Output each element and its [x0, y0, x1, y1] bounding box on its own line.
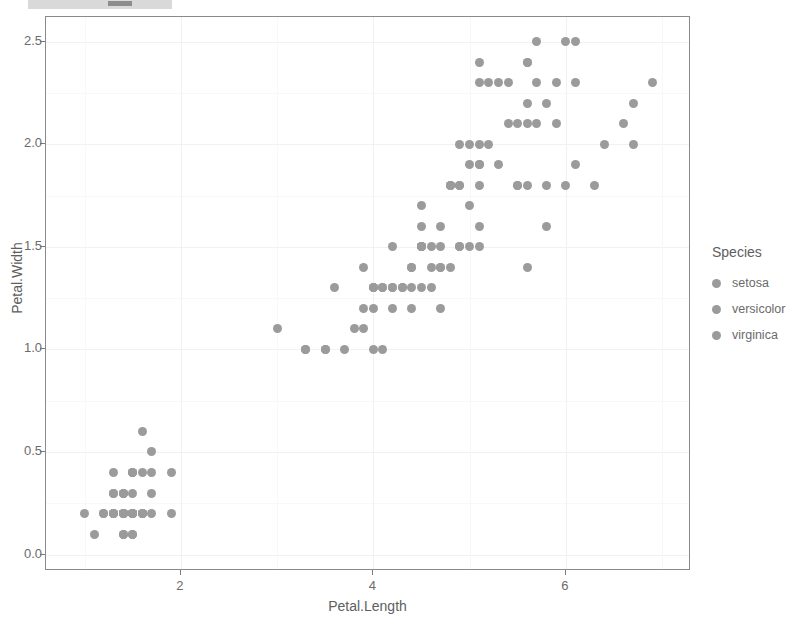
- data-point: [138, 509, 147, 518]
- gridline-y-major: [46, 452, 689, 453]
- gridline-y-major: [46, 247, 689, 248]
- data-point: [378, 345, 387, 354]
- plot-area: [46, 17, 689, 569]
- data-point: [436, 222, 445, 231]
- y-axis-tick-label: 1.0: [24, 340, 42, 355]
- legend-key-dot-icon: [712, 331, 721, 340]
- data-point: [301, 345, 310, 354]
- data-point: [523, 181, 532, 190]
- gridline-x-major: [566, 17, 567, 569]
- gridline-y-minor: [46, 503, 689, 504]
- data-point: [561, 181, 570, 190]
- data-point: [571, 78, 580, 87]
- data-point: [147, 468, 156, 477]
- data-point: [561, 37, 570, 46]
- gridline-y-major: [46, 144, 689, 145]
- data-point: [475, 160, 484, 169]
- data-point: [128, 509, 137, 518]
- x-axis-tick-label: 6: [545, 578, 585, 593]
- gridline-x-minor: [85, 17, 86, 569]
- data-point: [167, 468, 176, 477]
- data-point: [523, 263, 532, 272]
- legend-title: Species: [712, 244, 797, 260]
- legend-item-setosa[interactable]: setosa: [712, 270, 797, 296]
- data-point: [80, 509, 89, 518]
- data-point: [629, 140, 638, 149]
- data-point: [369, 283, 378, 292]
- legend-item-virginica[interactable]: virginica: [712, 322, 797, 348]
- data-point: [407, 283, 416, 292]
- data-point: [629, 99, 638, 108]
- data-point: [359, 304, 368, 313]
- data-point: [446, 263, 455, 272]
- data-point: [330, 283, 339, 292]
- data-point: [475, 58, 484, 67]
- data-point: [167, 509, 176, 518]
- data-point: [513, 181, 522, 190]
- data-point: [436, 263, 445, 272]
- legend-key-dot-icon: [712, 305, 721, 314]
- data-point: [90, 530, 99, 539]
- data-point: [619, 119, 628, 128]
- x-axis-tick-label: 2: [160, 578, 200, 593]
- data-point: [388, 242, 397, 251]
- legend-item-versicolor[interactable]: versicolor: [712, 296, 797, 322]
- gridline-y-major: [46, 555, 689, 556]
- data-point: [475, 222, 484, 231]
- gridline-x-minor: [277, 17, 278, 569]
- data-point: [475, 242, 484, 251]
- data-point: [523, 99, 532, 108]
- x-axis-tick: [180, 570, 181, 575]
- data-point: [350, 324, 359, 333]
- gridline-y-minor: [46, 401, 689, 402]
- data-point: [388, 283, 397, 292]
- data-point: [484, 78, 493, 87]
- data-point: [378, 283, 387, 292]
- data-point: [571, 160, 580, 169]
- data-point: [552, 119, 561, 128]
- gridline-y-minor: [46, 298, 689, 299]
- data-point: [128, 468, 137, 477]
- data-point: [475, 181, 484, 190]
- data-point: [417, 222, 426, 231]
- data-point: [542, 181, 551, 190]
- legend-item-label: setosa: [732, 276, 769, 290]
- data-point: [523, 58, 532, 67]
- data-point: [455, 181, 464, 190]
- data-point: [475, 140, 484, 149]
- scatter-plot-figure: Petal.Length Petal.Width Species setosav…: [0, 0, 797, 628]
- data-point: [427, 283, 436, 292]
- data-point: [446, 181, 455, 190]
- gridline-x-minor: [662, 17, 663, 569]
- data-point: [532, 78, 541, 87]
- data-point: [465, 242, 474, 251]
- data-point: [369, 304, 378, 313]
- data-point: [465, 140, 474, 149]
- data-point: [321, 345, 330, 354]
- data-point: [138, 468, 147, 477]
- data-point: [484, 140, 493, 149]
- data-point: [119, 489, 128, 498]
- data-point: [109, 468, 118, 477]
- data-point: [494, 160, 503, 169]
- gridline-x-major: [373, 17, 374, 569]
- data-point: [147, 489, 156, 498]
- gridline-y-minor: [46, 196, 689, 197]
- data-point: [369, 345, 378, 354]
- data-point: [542, 99, 551, 108]
- data-point: [455, 140, 464, 149]
- data-point: [407, 263, 416, 272]
- data-point: [340, 345, 349, 354]
- legend-item-label: virginica: [732, 328, 778, 342]
- gridline-y-major: [46, 42, 689, 43]
- data-point: [417, 283, 426, 292]
- data-point: [417, 242, 426, 251]
- data-point: [128, 530, 137, 539]
- legend: Species setosaversicolorvirginica: [712, 244, 797, 348]
- y-axis-tick-label: 2.0: [24, 135, 42, 150]
- data-point: [147, 447, 156, 456]
- data-point: [513, 119, 522, 128]
- data-point: [359, 263, 368, 272]
- data-point: [359, 324, 368, 333]
- data-point: [552, 78, 561, 87]
